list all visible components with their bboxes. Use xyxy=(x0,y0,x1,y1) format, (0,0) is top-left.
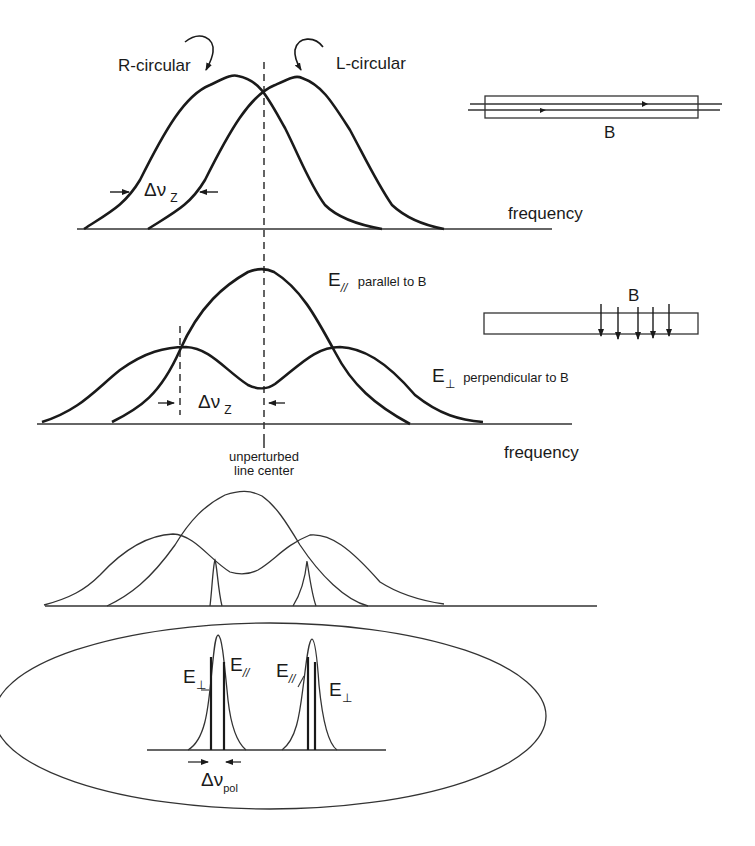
e-symbol: E xyxy=(329,679,342,700)
e-parallel-thin-curve xyxy=(107,491,368,606)
narrow-peak-left xyxy=(210,560,222,606)
e-symbol: E xyxy=(328,269,341,290)
inset-2-b-label: B xyxy=(628,287,639,304)
center-label-line2: line center xyxy=(214,464,314,478)
r-circular-curve xyxy=(84,75,382,229)
parallel-subscript: // xyxy=(341,281,348,295)
left-e-par-label: E// xyxy=(230,655,249,674)
panel-3-combined xyxy=(44,491,597,606)
e-symbol: E xyxy=(230,654,243,675)
delta-symbol: Δν xyxy=(201,769,223,790)
parallel-subscript: // xyxy=(243,666,250,680)
right-e-par-label: E// xyxy=(276,661,295,680)
perp-subscript: ⊥ xyxy=(342,691,352,705)
e-perp-curve xyxy=(42,347,483,422)
e-symbol: E xyxy=(432,365,445,386)
e-parallel-label: E// parallel to B xyxy=(328,270,426,289)
e-symbol: E xyxy=(183,666,196,687)
delta-symbol: Δν xyxy=(144,179,166,200)
right-e-perp-label: E⊥ xyxy=(329,680,352,699)
frequency-axis-label-1: frequency xyxy=(508,205,583,222)
l-circular-arrow-icon xyxy=(295,39,323,70)
pol-subscript: pol xyxy=(223,782,238,794)
e-perp-label: E⊥ perpendicular to B xyxy=(432,366,569,385)
delta-nu-z-label-1: ΔνZ xyxy=(144,180,178,199)
center-label-line1: unperturbed xyxy=(214,450,314,464)
left-narrow-peak xyxy=(188,635,246,750)
panel-4-zoom-ellipse xyxy=(0,623,546,809)
inset-1-slab xyxy=(485,96,698,118)
r-circular-label: R-circular xyxy=(118,57,191,74)
delta-subscript: Z xyxy=(170,191,177,205)
delta-symbol: Δν xyxy=(198,391,220,412)
diagram-canvas xyxy=(0,0,755,846)
l-circular-label: L-circular xyxy=(336,55,406,72)
e-parallel-curve xyxy=(112,269,410,424)
inset-2-slab xyxy=(484,313,698,334)
e-symbol: E xyxy=(276,660,289,681)
perp-subscript: ⊥ xyxy=(445,377,455,391)
zoom-ellipse xyxy=(0,623,546,809)
unperturbed-line-center-label: unperturbed line center xyxy=(214,450,314,478)
inset-1-b-label: B xyxy=(604,124,615,141)
delta-nu-pol-label: Δνpol xyxy=(201,770,238,789)
parallel-subscript: // xyxy=(289,672,296,686)
inset-1-arrow-icon-2 xyxy=(642,101,648,107)
perp-description: perpendicular to B xyxy=(463,370,569,385)
e-perp-thin-curve xyxy=(44,534,444,605)
left-e-perp-label: E⊥ xyxy=(183,667,206,686)
narrow-peak-right xyxy=(293,561,316,606)
panel-2-transverse xyxy=(37,269,698,448)
delta-subscript: Z xyxy=(224,403,231,417)
perp-subscript: ⊥ xyxy=(196,678,206,692)
parallel-description: parallel to B xyxy=(358,274,427,289)
delta-nu-z-label-2: ΔνZ xyxy=(198,392,232,411)
frequency-axis-label-2: frequency xyxy=(504,444,579,461)
